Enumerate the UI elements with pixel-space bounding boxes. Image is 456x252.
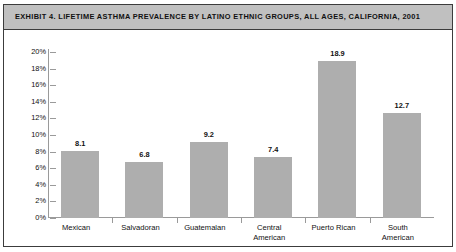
- exhibit-title-band: EXHIBIT 4. LIFETIME ASTHMA PREVALENCE BY…: [4, 5, 452, 30]
- y-axis-tick-label: 6%: [35, 163, 46, 172]
- y-axis-tick-label: 10%: [31, 130, 46, 139]
- bar-value-label: 18.9: [330, 49, 344, 58]
- x-axis-category-label: CentralAmerican: [237, 223, 301, 242]
- y-axis-tick-label: 16%: [31, 80, 46, 89]
- x-axis-category-label: SouthAmerican: [366, 223, 430, 242]
- x-axis-category-label: Mexican: [44, 223, 108, 233]
- bar-value-label: 12.7: [395, 101, 409, 110]
- category-label-line: Mexican: [44, 223, 108, 233]
- bar[interactable]: [190, 142, 228, 218]
- y-axis-tick-label: 12%: [31, 113, 46, 122]
- y-axis-tick-label: 18%: [31, 64, 46, 73]
- category-label-line: Puerto Rican: [301, 223, 365, 233]
- bar-group[interactable]: 12.7: [370, 52, 434, 218]
- x-axis-category-label: Puerto Rican: [301, 223, 365, 233]
- bar-group[interactable]: 6.8: [112, 52, 176, 218]
- category-label-line: Guatemalan: [173, 223, 237, 233]
- y-axis-tick-label: 0%: [35, 213, 46, 222]
- y-axis-tick-label: 8%: [35, 147, 46, 156]
- bar-value-label: 7.4: [268, 145, 278, 154]
- category-label-line: American: [366, 233, 430, 243]
- y-axis-tick-label: 20%: [31, 47, 46, 56]
- category-label-line: Salvadoran: [108, 223, 172, 233]
- bar-series: 8.16.89.27.418.912.7: [48, 52, 434, 218]
- bar[interactable]: [383, 113, 421, 218]
- bar[interactable]: [125, 162, 163, 218]
- bar-group[interactable]: 8.1: [48, 52, 112, 218]
- exhibit-title: EXHIBIT 4. LIFETIME ASTHMA PREVALENCE BY…: [15, 12, 420, 21]
- x-axis-category-label: Salvadoran: [108, 223, 172, 233]
- bar-value-label: 6.8: [139, 150, 149, 159]
- category-label-line: American: [237, 233, 301, 243]
- category-label-line: South: [366, 223, 430, 233]
- category-label-line: Central: [237, 223, 301, 233]
- chart-plot-area: 20%18%16%14%12%10%8%6%4%2%0% 8.16.89.27.…: [48, 52, 434, 218]
- exhibit-frame: EXHIBIT 4. LIFETIME ASTHMA PREVALENCE BY…: [3, 4, 453, 247]
- bar[interactable]: [318, 61, 356, 218]
- bar[interactable]: [61, 151, 99, 218]
- y-axis-tick-label: 4%: [35, 180, 46, 189]
- bar[interactable]: [254, 157, 292, 218]
- y-axis-tick-label: 2%: [35, 196, 46, 205]
- y-axis-tick-label: 14%: [31, 97, 46, 106]
- x-axis-category-label: Guatemalan: [173, 223, 237, 233]
- bar-value-label: 8.1: [75, 139, 85, 148]
- bar-group[interactable]: 18.9: [305, 52, 369, 218]
- bar-group[interactable]: 7.4: [241, 52, 305, 218]
- y-axis-tick-mark: [50, 218, 56, 219]
- bar-value-label: 9.2: [204, 130, 214, 139]
- bar-group[interactable]: 9.2: [177, 52, 241, 218]
